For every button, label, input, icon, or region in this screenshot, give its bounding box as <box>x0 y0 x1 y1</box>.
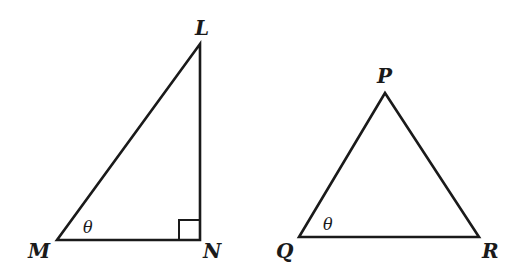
angle-theta-m: θ <box>83 218 93 237</box>
vertex-label-r: R <box>481 239 499 263</box>
vertex-label-q: Q <box>276 239 294 263</box>
vertex-label-l: L <box>194 16 209 40</box>
triangle-lmn: θ L M N <box>27 16 222 263</box>
vertex-label-n: N <box>202 239 222 263</box>
right-angle-marker-n <box>179 220 200 240</box>
vertex-label-m: M <box>27 239 51 263</box>
triangle-pqr: θ P Q R <box>276 64 499 263</box>
geometry-diagram: θ L M N θ P Q R <box>0 0 528 279</box>
vertex-label-p: P <box>376 64 393 88</box>
triangle-lmn-edges <box>57 44 200 240</box>
angle-theta-q: θ <box>323 215 333 234</box>
